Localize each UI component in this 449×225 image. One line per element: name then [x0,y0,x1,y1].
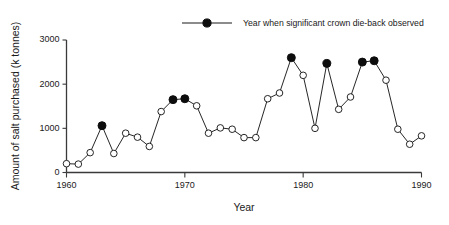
data-point-marker-open [63,160,70,167]
legend-label: Year when significant crown die-back obs… [243,18,424,28]
data-point-marker-open [253,134,260,141]
y-tick-label: 3000 [39,34,59,44]
data-point-marker-open [276,90,283,97]
x-tick-label: 1960 [56,180,76,190]
data-point-marker-filled [181,95,189,103]
data-point-marker-open [75,161,82,168]
data-point-marker-open [406,141,413,148]
data-point-marker-open [146,143,153,150]
data-point-marker-filled [323,59,331,67]
chart-background [0,0,449,225]
data-point-marker-filled [98,122,106,130]
x-tick-label: 1980 [293,180,313,190]
y-tick-label: 1000 [39,123,59,133]
x-tick-label: 1970 [175,180,195,190]
data-point-marker-filled [287,54,295,62]
data-point-marker-open [217,125,224,132]
x-axis-title: Year [233,201,255,213]
data-point-marker-open [300,72,307,79]
y-axis-title: Amount of salt purchased (k tonnes) [9,22,21,191]
data-point-marker-open [205,130,212,137]
data-point-marker-open [264,95,271,102]
data-point-marker-open [418,133,425,140]
data-point-marker-open [134,134,141,141]
data-point-marker-open [193,103,200,110]
data-point-marker-open [335,106,342,113]
data-point-marker-open [122,130,129,137]
data-point-marker-filled [169,96,177,104]
data-point-marker-filled [370,57,378,65]
y-tick-label: 2000 [39,79,59,89]
data-point-marker-open [395,126,402,133]
chart-container: Year when significant crown die-back obs… [0,0,449,225]
salt-purchased-line-chart: Year when significant crown die-back obs… [0,0,449,225]
data-point-marker-open [347,94,354,101]
data-point-marker-open [229,126,236,133]
data-point-marker-open [158,108,165,115]
data-point-marker-open [111,150,118,157]
data-point-marker-open [312,125,319,132]
y-tick-label: 0 [54,167,59,177]
data-point-marker-open [87,149,94,156]
data-point-marker-filled [358,58,366,66]
legend-filled-circle-icon [203,19,211,27]
data-point-marker-open [241,134,248,141]
x-tick-label: 1990 [411,180,431,190]
data-point-marker-open [383,77,390,84]
